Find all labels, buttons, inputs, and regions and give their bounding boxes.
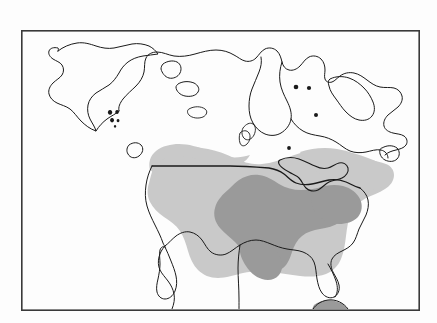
range-map bbox=[0, 0, 437, 323]
caption-ghost-row bbox=[0, 313, 437, 323]
figure-root bbox=[0, 0, 437, 323]
arctic-island-dot-4 bbox=[287, 146, 291, 150]
arctic-island-dot-2 bbox=[307, 86, 311, 90]
arctic-island-dot-3 bbox=[314, 113, 318, 117]
arctic-island-dot-1 bbox=[294, 85, 299, 90]
